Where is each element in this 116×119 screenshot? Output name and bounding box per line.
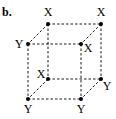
edge-back-top-left-front-top-left [28,24,48,44]
edge-back-bottom-left-front-bottom-left [28,79,48,99]
vertex-label-back-bottom-right: Y [103,79,112,93]
vertex-label-front-top-right: X [84,41,93,55]
vertex-front-bottom-right [79,97,83,101]
cube-diagram: XXYXXYYY [0,0,116,119]
edge-back-bottom-right-front-bottom-right [81,79,101,99]
vertex-label-front-top-left: Y [15,37,24,51]
vertex-front-top-left [26,42,30,46]
vertex-back-top-left [46,22,50,26]
vertex-label-front-bottom-right: Y [77,102,86,116]
vertex-back-bottom-left [46,77,50,81]
vertex-front-top-right [79,42,83,46]
vertex-label-back-bottom-left: X [37,67,46,81]
vertex-label-front-bottom-left: Y [24,102,33,116]
vertex-back-top-right [99,22,103,26]
vertex-label-back-top-left: X [44,5,53,19]
vertex-label-back-top-right: X [97,5,106,19]
cube-edges [28,24,101,99]
vertex-front-bottom-left [26,97,30,101]
